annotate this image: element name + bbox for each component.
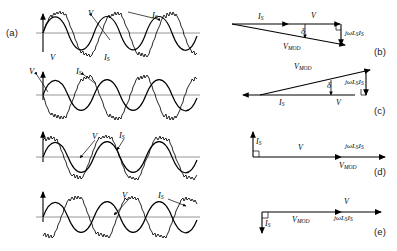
e-jwl-isub: S — [350, 216, 353, 222]
c-is-sub: S — [79, 70, 82, 76]
panel-a-voltage-label-bottom: V — [50, 52, 55, 62]
panel-e-voltage-phasor-label: V — [344, 197, 349, 206]
b-jwl-sym: jωL — [345, 29, 356, 37]
b-is-sub: S — [261, 15, 264, 21]
panel-b-vmod-phasor-label: VMOD — [283, 42, 300, 51]
panel-e-current-phasor-label: IS — [265, 219, 270, 228]
panel-label-e: (e) — [374, 226, 386, 237]
panel-a-waveform — [36, 11, 200, 57]
panel-e-phasor — [262, 212, 381, 233]
panel-c-vmod-phasor-label: VMOD — [294, 62, 311, 71]
c-is-psub: S — [282, 101, 285, 107]
b-jwl-isub: S — [361, 31, 364, 37]
panel-d-phasor — [253, 132, 385, 157]
d-vmod-sub: MOD — [344, 164, 357, 170]
panel-e-current-label: IS — [158, 190, 164, 200]
c-jwl-sym: jωL — [345, 78, 356, 86]
panel-label-c: (c) — [374, 105, 386, 116]
panel-d-voltage-phasor-label: V — [298, 143, 303, 152]
e-is-sub: S — [161, 194, 164, 200]
panel-c-inductive-drop-label: jωLSIS — [345, 78, 364, 86]
panel-b-current-phasor-label: IS — [258, 12, 263, 21]
e-v-sym: V — [122, 190, 127, 200]
panel-b-delta-label: δ — [301, 26, 305, 36]
panel-a-voltage-label: V — [88, 8, 93, 18]
d-jwl-sym: jωL — [345, 142, 356, 150]
e-is-psub: S — [268, 222, 271, 228]
panel-d-inductive-drop-label: jωLSIS — [345, 142, 364, 150]
panel-d-current-label: IS — [119, 130, 125, 140]
b-vmod-sub: MOD — [288, 45, 301, 51]
panel-b-inductive-drop-label: jωLSIS — [345, 29, 364, 37]
panel-c-waveform — [36, 72, 200, 120]
panel-a-current-label: IS — [152, 10, 158, 20]
c-jwl-isub: S — [361, 80, 364, 86]
panel-a-current-label-bottom: IS — [104, 52, 110, 62]
c-v-sym: V — [29, 66, 34, 76]
panel-c-current-label: IS — [76, 66, 82, 76]
d-is-psub: S — [259, 140, 262, 146]
panel-d-waveform — [36, 132, 200, 180]
panel-d-current-phasor-label: IS — [256, 137, 261, 146]
panel-e-voltage-label: V — [122, 190, 127, 200]
e-vmod-sub: MOD — [297, 218, 310, 224]
panel-c-voltage-label: V — [29, 66, 34, 76]
panel-b-voltage-phasor-label: V — [311, 11, 316, 20]
panel-e-inductive-drop-label: jωLSIS — [334, 214, 353, 222]
voltage-symbol: V — [88, 8, 93, 18]
panel-label-b: (b) — [374, 46, 386, 57]
figure-container: (a) (b) (c) (d) (e) V IS V IS IS V VMOD … — [0, 0, 397, 251]
panel-label-a: (a) — [6, 27, 18, 38]
e-jwl-sym: jωL — [334, 214, 345, 222]
voltage-symbol-bottom: V — [50, 52, 55, 62]
panel-d-vmod-phasor-label: VMOD — [339, 161, 356, 170]
current-subscript: S — [155, 14, 158, 20]
panel-label-d: (d) — [374, 166, 386, 177]
panel-c-voltage-phasor-label: V — [336, 98, 341, 107]
panel-e-vmod-phasor-label: VMOD — [292, 215, 309, 224]
d-jwl-isub: S — [361, 144, 364, 150]
c-vmod-sub: MOD — [299, 65, 312, 71]
panel-c-current-phasor-label: IS — [279, 98, 284, 107]
current-subscript-bottom: S — [107, 56, 110, 62]
panel-d-voltage-label: V — [92, 131, 97, 141]
d-v-psym: V — [298, 143, 303, 152]
panel-c-delta-label: δ — [327, 80, 331, 90]
b-v-sym: V — [311, 11, 316, 20]
panel-e-waveform — [36, 192, 200, 238]
d-is-sub: S — [122, 134, 125, 140]
c-v-psym: V — [336, 98, 341, 107]
e-v-psym: V — [344, 197, 349, 206]
d-v-sym: V — [92, 131, 97, 141]
